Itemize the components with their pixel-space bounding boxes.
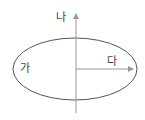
label-ga: 가: [20, 63, 30, 74]
diagram-canvas: [0, 0, 145, 120]
label-na: 나: [56, 12, 66, 23]
label-da: 다: [107, 56, 117, 67]
